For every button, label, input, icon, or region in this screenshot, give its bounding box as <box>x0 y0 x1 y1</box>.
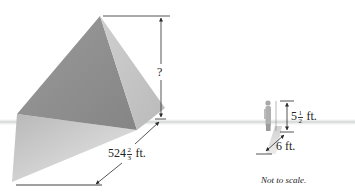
person-height-fraction: 12 <box>298 110 303 125</box>
pyramid-shadow-label: 52423 ft. <box>108 147 146 162</box>
pyramid-shadow-unit: ft. <box>136 146 146 160</box>
person-height-whole: 5 <box>291 109 297 123</box>
pyramid-shadow-whole: 524 <box>108 146 126 160</box>
person-height-unit: ft. <box>307 109 317 123</box>
pyramid-height-label: ? <box>157 66 162 78</box>
pyramid-shadow-diagram: ? 52423 ft. 512 ft. 6 ft. Not to scale. <box>0 0 355 195</box>
pyramid-shadow-arrow-down <box>96 163 122 184</box>
person-shadow-label: 6 ft. <box>276 140 295 152</box>
diagram-canvas <box>0 0 355 195</box>
not-to-scale-note: Not to scale. <box>261 176 306 185</box>
person-height-label: 512 ft. <box>291 110 317 125</box>
pyramid-shadow-fraction: 23 <box>127 147 132 162</box>
